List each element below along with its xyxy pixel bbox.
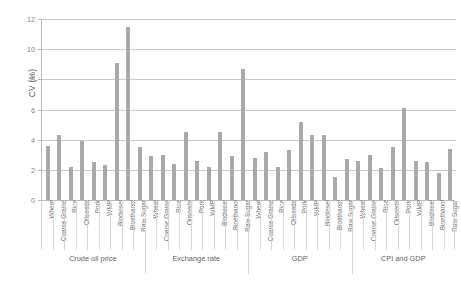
bar	[218, 132, 222, 200]
tick-separator	[179, 200, 180, 250]
y-tick-label: 10	[27, 45, 35, 54]
tick-separator	[99, 200, 100, 250]
y-tick-label: 6	[31, 105, 35, 114]
tick-separator	[64, 200, 65, 250]
tick-separator	[87, 200, 88, 250]
bar	[414, 161, 418, 200]
y-tick-mark	[38, 140, 41, 141]
y-tick-label: 2	[31, 165, 35, 174]
tick-separator	[271, 200, 272, 250]
group-separator	[145, 200, 146, 274]
group-label: CPI and GDP	[352, 254, 456, 263]
tick-separator	[340, 200, 341, 250]
bar	[161, 155, 165, 200]
bar	[207, 167, 211, 200]
tick-separator	[260, 200, 261, 250]
bar	[69, 167, 73, 200]
tick-separator	[237, 200, 238, 250]
bar	[333, 177, 337, 200]
tick-separator	[133, 200, 134, 250]
group-label: Crude oil price	[41, 254, 145, 263]
tick-separator	[454, 200, 455, 250]
tick-separator	[317, 200, 318, 250]
bar	[184, 132, 188, 200]
tick-separator	[110, 200, 111, 250]
tick-separator	[375, 200, 376, 250]
bar	[172, 164, 176, 200]
bar	[195, 161, 199, 200]
tick-separator	[409, 200, 410, 250]
tick-separator	[329, 200, 330, 250]
bar	[241, 69, 245, 200]
tick-separator	[191, 200, 192, 250]
tick-separator	[432, 200, 433, 250]
tick-separator	[41, 200, 42, 250]
group-label: Exchange rate	[145, 254, 249, 263]
bar	[437, 173, 441, 200]
y-tick-mark	[38, 110, 41, 111]
y-tick-mark	[38, 79, 41, 80]
tick-separator	[363, 200, 364, 250]
tick-separator	[398, 200, 399, 250]
tick-separator	[225, 200, 226, 250]
x-axis-group-labels: Crude oil priceExchange rateGDPCPI and G…	[41, 252, 455, 274]
tick-separator	[156, 200, 157, 250]
group-separator	[248, 200, 249, 274]
bar	[287, 150, 291, 200]
bar	[402, 108, 406, 200]
bar	[368, 155, 372, 200]
bar	[310, 135, 314, 200]
bar	[448, 149, 452, 200]
bar-chart: CV (%) 024681012 WheatCoarse GrainsRiceO…	[0, 0, 461, 282]
group-separator	[352, 200, 353, 274]
tick-separator	[421, 200, 422, 250]
y-tick-label: 8	[31, 75, 35, 84]
bar	[322, 135, 326, 200]
bar	[276, 167, 280, 200]
y-tick-mark	[38, 200, 41, 201]
bar	[138, 147, 142, 200]
bar	[80, 141, 84, 200]
bar	[230, 156, 234, 200]
y-tick-mark	[38, 170, 41, 171]
bar	[126, 27, 130, 200]
bar	[103, 165, 107, 200]
y-tick-mark	[38, 49, 41, 50]
bar	[391, 147, 395, 200]
bar	[57, 135, 61, 200]
bar	[92, 162, 96, 200]
bar	[345, 159, 349, 200]
tick-separator	[214, 200, 215, 250]
y-tick-label: 4	[31, 135, 35, 144]
tick-separator	[306, 200, 307, 250]
bar	[425, 162, 429, 200]
tick-separator	[168, 200, 169, 250]
tick-separator	[294, 200, 295, 250]
tick-separator	[76, 200, 77, 250]
y-tick-mark	[38, 19, 41, 20]
group-label: GDP	[248, 254, 352, 263]
tick-separator	[202, 200, 203, 250]
plot-area	[41, 19, 456, 200]
tick-separator	[386, 200, 387, 250]
bar	[379, 168, 383, 200]
tick-separator	[444, 200, 445, 250]
bar	[149, 156, 153, 200]
y-tick-label: 0	[31, 196, 35, 205]
tick-separator	[53, 200, 54, 250]
bar	[46, 146, 50, 200]
bar	[299, 122, 303, 200]
bar-series	[42, 19, 456, 200]
bar	[115, 63, 119, 200]
y-tick-label: 12	[27, 15, 35, 24]
bar	[253, 158, 257, 200]
tick-separator	[283, 200, 284, 250]
bar	[264, 152, 268, 200]
tick-separator	[122, 200, 123, 250]
y-axis-tick-labels: 024681012	[0, 19, 38, 200]
bar	[356, 161, 360, 200]
